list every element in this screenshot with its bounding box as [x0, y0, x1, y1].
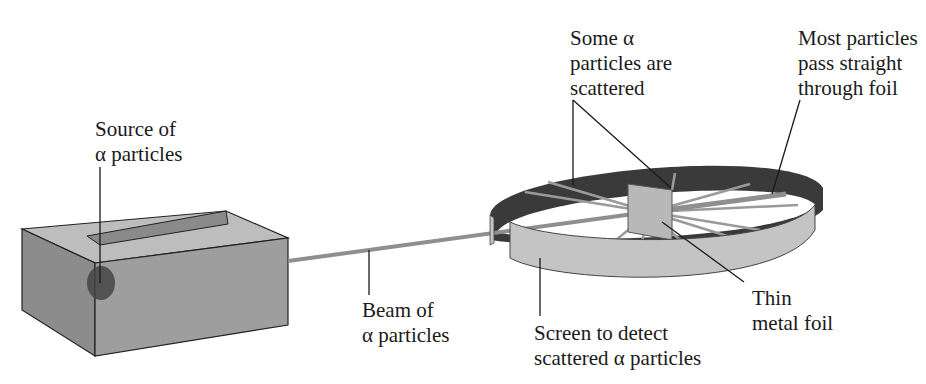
- straight-label: Most particles pass straight through foi…: [798, 26, 918, 101]
- source-label: Source of α particles: [95, 117, 182, 167]
- beam-label: Beam of α particles: [362, 298, 449, 348]
- alpha-source-box: [22, 211, 288, 356]
- source-spot: [87, 266, 115, 300]
- screen-label: Screen to detect scattered α particles: [534, 321, 701, 371]
- scattered-label: Some α particles are scattered: [570, 26, 672, 101]
- foil-label: Thin metal foil: [752, 286, 833, 336]
- thin-metal-foil: [628, 184, 672, 240]
